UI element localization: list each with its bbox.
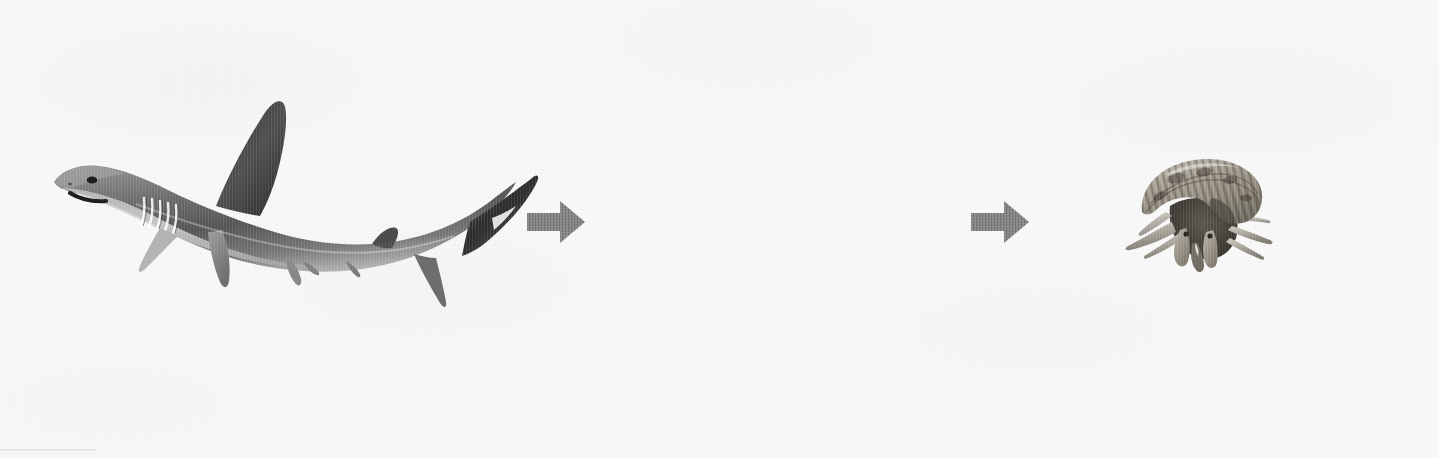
scan-edge-artifact <box>0 449 96 451</box>
hermit-crab-photo <box>1120 152 1280 276</box>
arrow-right-icon-1 <box>526 198 586 246</box>
shark-photo <box>40 96 540 311</box>
food-chain-diagram: shark <box>0 0 1439 458</box>
food-chain-step-shark: shark <box>40 96 540 328</box>
food-chain-blank-slot <box>608 96 952 328</box>
food-chain-step-hermit-crab: hermit crab <box>1080 96 1320 328</box>
arrow-right-icon-2 <box>970 198 1030 246</box>
